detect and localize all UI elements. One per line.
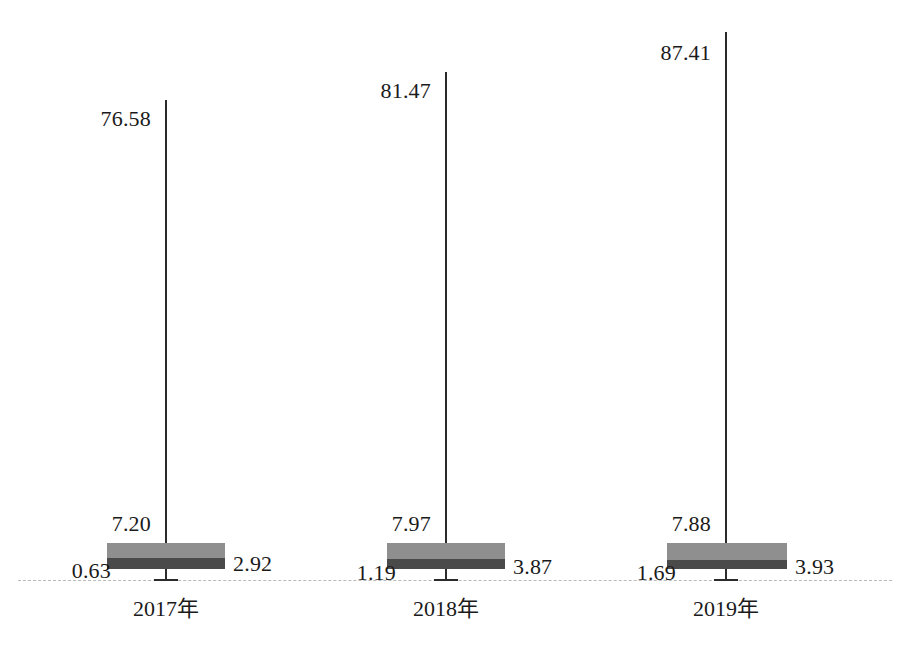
box-lower-band-2018	[387, 559, 505, 569]
box-upper-band-2017	[107, 543, 225, 558]
box-plot-group-2017: 76.58 7.20 2.92 0.63 2017年	[46, 0, 286, 661]
q3-value-label-2017: 7.20	[41, 513, 151, 535]
box-lower-band-2019	[667, 560, 787, 569]
box-plot-group-2018: 81.47 7.97 3.87 1.19 2018年	[326, 0, 566, 661]
min-value-label-2017: 0.63	[1, 560, 111, 582]
lower-whisker-cap-2019	[714, 579, 738, 581]
box-lower-band-2017	[107, 558, 225, 569]
max-value-label-2017: 76.58	[41, 108, 151, 130]
max-value-label-2018: 81.47	[321, 80, 431, 102]
q1-value-label-2019: 3.93	[795, 556, 905, 578]
max-value-label-2019: 87.41	[601, 42, 711, 64]
lower-whisker-cap-2017	[154, 579, 178, 581]
min-value-label-2019: 1.69	[566, 562, 676, 584]
box-upper-band-2019	[667, 543, 787, 560]
box-upper-band-2018	[387, 543, 505, 559]
plot-area: 76.58 7.20 2.92 0.63 2017年 81.47 7.97 3.…	[0, 0, 914, 661]
box-2019	[667, 543, 787, 569]
q3-value-label-2019: 7.88	[601, 513, 711, 535]
box-plot-group-2019: 87.41 7.88 3.93 1.69 2019年	[606, 0, 846, 661]
upper-whisker-2018	[445, 72, 447, 545]
category-label-2019: 2019年	[606, 598, 846, 620]
upper-whisker-2017	[165, 100, 167, 545]
min-value-label-2018: 1.19	[286, 562, 396, 584]
q3-value-label-2018: 7.97	[321, 513, 431, 535]
category-label-2018: 2018年	[326, 598, 566, 620]
box-2018	[387, 543, 505, 569]
upper-whisker-2019	[725, 32, 727, 545]
category-label-2017: 2017年	[46, 598, 286, 620]
lower-whisker-cap-2018	[434, 579, 458, 581]
box-2017	[107, 543, 225, 569]
box-plot-chart: 76.58 7.20 2.92 0.63 2017年 81.47 7.97 3.…	[0, 0, 914, 661]
